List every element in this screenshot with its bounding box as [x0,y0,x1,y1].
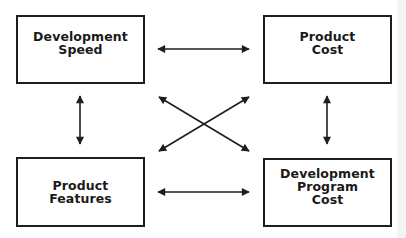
connector-arrows [0,0,406,238]
